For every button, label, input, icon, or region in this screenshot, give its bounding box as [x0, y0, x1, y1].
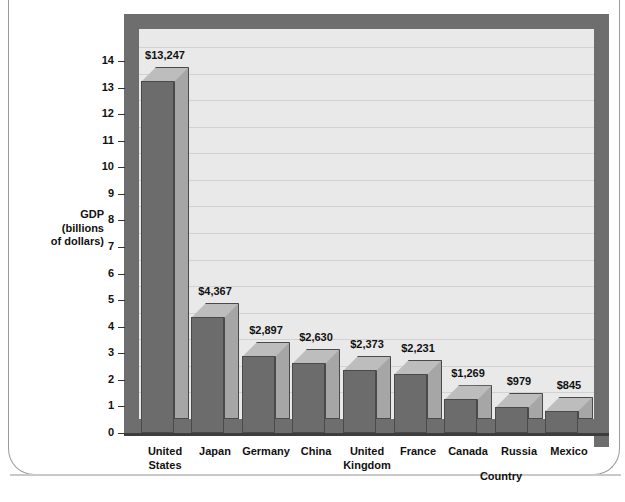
y-axis-tick-mark [118, 353, 125, 354]
y-axis-tick-mark [118, 274, 125, 275]
y-axis-tick-mark [118, 114, 125, 115]
y-axis-tick-mark [118, 433, 125, 434]
gridline [139, 233, 594, 234]
gridline [139, 153, 594, 154]
gridline [139, 206, 594, 207]
bar-russia [495, 393, 543, 433]
y-axis-tick-label: 3 [88, 347, 114, 358]
y-axis-title: GDP(billionsof dollars) [6, 208, 104, 249]
y-axis-tick-label: 11 [88, 135, 114, 146]
y-axis-tick-mark [118, 141, 125, 142]
bar-japan [191, 303, 239, 433]
bar-germany [242, 342, 290, 433]
bar-front-face [292, 363, 325, 433]
bar-side-face [224, 303, 239, 419]
y-axis-tick-label: 5 [88, 294, 114, 305]
y-axis-tick-label: 9 [88, 188, 114, 199]
y-axis-tick-mark [118, 406, 125, 407]
bar-canada [444, 385, 492, 433]
gdp-bar-chart: 01234567891011121314 GDP(billionsof doll… [0, 0, 625, 502]
bar-value-label: $845 [533, 379, 605, 391]
gridline [139, 74, 594, 75]
bar-china [292, 349, 340, 433]
bar-united-states [141, 67, 189, 433]
y-axis-tick-mark [118, 167, 125, 168]
x-axis-category-label: Mexico [532, 444, 606, 458]
bar-front-face [242, 356, 275, 433]
y-axis-tick-mark [118, 327, 125, 328]
bar-front-face [141, 81, 174, 433]
y-axis-tick-label: 0 [88, 427, 114, 438]
x-axis-category-line: Mexico [532, 444, 606, 458]
y-axis-tick-label: 12 [88, 108, 114, 119]
bar-united-kingdom [343, 356, 391, 433]
bar-front-face [394, 374, 427, 433]
y-axis-tick-label: 6 [88, 268, 114, 279]
y-axis-tick-label: 13 [88, 82, 114, 93]
chart-wall-left [124, 29, 139, 433]
bar-front-face [545, 411, 578, 433]
gridline [139, 127, 594, 128]
chart-floor-front-edge [124, 433, 609, 436]
chart-wall-top [124, 14, 609, 29]
y-axis-tick-mark [118, 88, 125, 89]
y-axis-tick-mark [118, 61, 125, 62]
bar-front-face [191, 317, 224, 433]
y-axis-tick-label: 4 [88, 321, 114, 332]
y-axis-title-line: of dollars) [6, 235, 104, 249]
gridline [139, 180, 594, 181]
bar-value-label: $4,367 [179, 285, 251, 297]
y-axis-tick-mark [118, 300, 125, 301]
y-axis-tick-label: 1 [88, 400, 114, 411]
gridline [139, 100, 594, 101]
bar-mexico [545, 397, 593, 433]
y-axis-tick-label: 14 [88, 55, 114, 66]
y-axis-title-line: (billions [6, 222, 104, 236]
x-axis-category-line: States [128, 458, 202, 472]
bar-front-face [495, 407, 528, 433]
bar-front-face [444, 399, 477, 433]
y-axis-title-line: GDP [6, 208, 104, 222]
gridline [139, 47, 594, 48]
bar-value-label: $2,231 [382, 342, 454, 354]
y-axis-tick-mark [118, 380, 125, 381]
x-axis-title: Country [441, 470, 561, 482]
y-axis-tick-mark [118, 194, 125, 195]
bar-side-face [174, 67, 189, 419]
y-axis-tick-mark [118, 220, 125, 221]
y-axis-tick-label: 2 [88, 374, 114, 385]
y-axis-tick-mark [118, 247, 125, 248]
x-axis-category-line: Kingdom [330, 458, 404, 472]
y-axis-tick-label: 10 [88, 161, 114, 172]
bar-front-face [343, 370, 376, 433]
bar-value-label: $13,247 [129, 49, 201, 61]
gridline [139, 260, 594, 261]
